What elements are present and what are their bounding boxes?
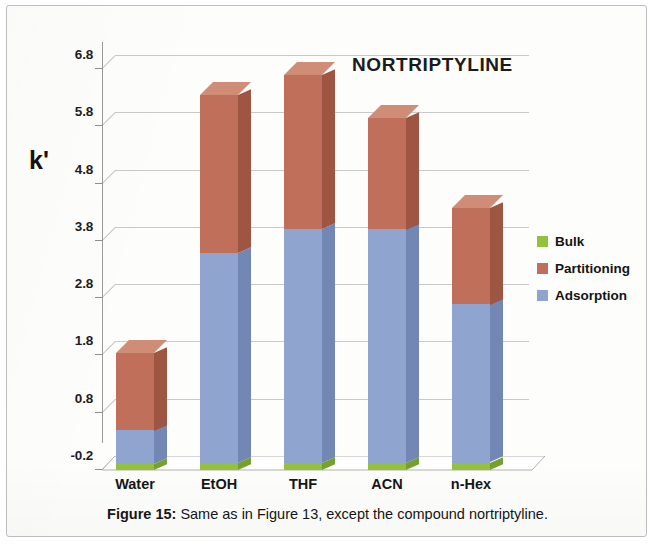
- x-axis-label-acn: ACN: [342, 476, 432, 492]
- gridline-riser: [102, 284, 116, 298]
- bar-segment-bulk[interactable]: [116, 464, 154, 470]
- legend-label: Partitioning: [555, 261, 630, 276]
- bar-segment-face: [116, 353, 154, 431]
- bar-segment-face: [368, 229, 406, 463]
- bar-segment-face: [452, 208, 490, 305]
- gridline-riser: [102, 112, 116, 126]
- bar-segment-side: [154, 347, 167, 431]
- legend-swatch-icon: [537, 236, 548, 247]
- x-axis-label-n-hex: n-Hex: [426, 476, 516, 492]
- bar-segment-adsorption[interactable]: [284, 229, 322, 463]
- y-axis-tick: [95, 125, 103, 126]
- gridline-riser: [102, 399, 116, 413]
- bar-segment-partitioning[interactable]: [200, 95, 238, 253]
- y-axis-tick: [95, 68, 103, 69]
- legend-item-bulk[interactable]: Bulk: [537, 228, 645, 255]
- bar-top-cap: [452, 195, 490, 208]
- gridline-riser: [102, 341, 116, 355]
- x-axis-label-water: Water: [90, 476, 180, 492]
- bar-segment-face: [200, 95, 238, 253]
- y-axis-tick-label: 5.8: [75, 104, 93, 119]
- bar-segment-face: [284, 463, 322, 470]
- bar-segment-bulk[interactable]: [200, 463, 238, 470]
- bar-segment-face: [368, 118, 406, 230]
- bar-segment-side: [154, 425, 167, 465]
- legend-label: Adsorption: [555, 288, 627, 303]
- bar-segment-face: [452, 304, 490, 462]
- bar-segment-side: [406, 224, 419, 464]
- plot-inner: -0.20.81.82.83.84.85.86.8 WaterEtOHTHFAC…: [102, 42, 522, 470]
- x-axis-label-etoh: EtOH: [174, 476, 264, 492]
- figure-card: k' NORTRIPTYLINE -0.20.81.82.83.84.85.86…: [6, 5, 647, 537]
- bar-segment-face: [368, 463, 406, 470]
- caption-text: Same as in Figure 13, except the compoun…: [176, 506, 548, 522]
- chart-plot-area: k' NORTRIPTYLINE -0.20.81.82.83.84.85.86…: [7, 6, 647, 498]
- bar-segment-side: [406, 112, 419, 229]
- y-axis-tick: [95, 240, 103, 241]
- bar-segment-face: [452, 463, 490, 470]
- y-axis-tick: [95, 412, 103, 413]
- bar-segment-partitioning[interactable]: [368, 118, 406, 230]
- bar-top-cap: [368, 105, 406, 118]
- bar-segment-bulk[interactable]: [284, 463, 322, 470]
- y-axis-line: [102, 42, 103, 443]
- gridline-riser: [102, 170, 116, 184]
- bar-segment-bulk[interactable]: [368, 463, 406, 470]
- bar-segment-partitioning[interactable]: [116, 353, 154, 431]
- bar-segment-side: [322, 70, 335, 230]
- bar-segment-face: [200, 253, 238, 463]
- bar-segment-partitioning[interactable]: [452, 208, 490, 305]
- y-axis-tick-label: 3.8: [75, 218, 93, 233]
- gridline-riser: [102, 227, 116, 241]
- y-axis-tick-label: 4.8: [75, 161, 93, 176]
- bar-segment-side: [490, 202, 503, 305]
- bar-segment-side: [490, 299, 503, 463]
- bar-segment-face: [116, 464, 154, 470]
- figure-caption: Figure 15: Same as in Figure 13, except …: [7, 506, 647, 522]
- x-axis-label-thf: THF: [258, 476, 348, 492]
- bar-segment-adsorption[interactable]: [368, 229, 406, 463]
- bar-top-cap: [284, 62, 322, 75]
- bar-top-cap: [116, 340, 154, 353]
- bar-top-cap: [200, 82, 238, 95]
- y-axis-tick: [95, 183, 103, 184]
- y-axis-tick-label: 1.8: [75, 333, 93, 348]
- y-axis-tick: [95, 297, 103, 298]
- legend-swatch-icon: [537, 290, 548, 301]
- y-axis-title: k': [29, 146, 49, 175]
- legend-swatch-icon: [537, 263, 548, 274]
- y-axis-tick-label: 0.8: [75, 390, 93, 405]
- bar-segment-face: [284, 229, 322, 463]
- bar-segment-face: [116, 430, 154, 464]
- bar-segment-adsorption[interactable]: [200, 253, 238, 463]
- bar-segment-face: [284, 75, 322, 229]
- y-axis-tick-label: -0.2: [71, 448, 93, 463]
- legend-label: Bulk: [555, 234, 584, 249]
- bar-segment-side: [238, 90, 251, 254]
- y-axis-tick-label: 6.8: [75, 47, 93, 62]
- y-axis-tick-label: 2.8: [75, 276, 93, 291]
- bar-segment-face: [200, 463, 238, 470]
- legend-item-adsorption[interactable]: Adsorption: [537, 282, 645, 309]
- bar-segment-side: [238, 248, 251, 463]
- gridline-riser: [102, 55, 116, 69]
- bar-segment-bulk[interactable]: [452, 463, 490, 470]
- bar-segment-adsorption[interactable]: [116, 430, 154, 464]
- bar-segment-adsorption[interactable]: [452, 304, 490, 462]
- gridline-back: [115, 55, 529, 56]
- legend-item-partitioning[interactable]: Partitioning: [537, 255, 645, 282]
- bar-segment-side: [322, 224, 335, 464]
- bar-segment-partitioning[interactable]: [284, 75, 322, 229]
- caption-label: Figure 15:: [107, 506, 176, 522]
- y-axis-tick: [95, 354, 103, 355]
- chart-legend: BulkPartitioningAdsorption: [537, 228, 645, 309]
